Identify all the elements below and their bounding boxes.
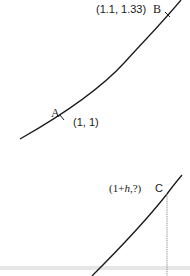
point-a-tick <box>60 115 64 120</box>
coord-suffix: ,?) <box>130 182 141 194</box>
point-a-coordinate-label: (1, 1) <box>73 117 99 128</box>
point-a-label: A <box>51 107 60 119</box>
point-b-coordinate-label: (1.1, 1.33) <box>96 4 146 15</box>
top-curve <box>20 0 181 139</box>
diagram-canvas <box>0 0 190 276</box>
coord-prefix: (1+ <box>109 182 124 194</box>
point-b-label: B <box>153 3 161 15</box>
point-c-label: C <box>155 183 163 194</box>
point-c-coordinate-label: (1+h,?) <box>109 183 141 194</box>
